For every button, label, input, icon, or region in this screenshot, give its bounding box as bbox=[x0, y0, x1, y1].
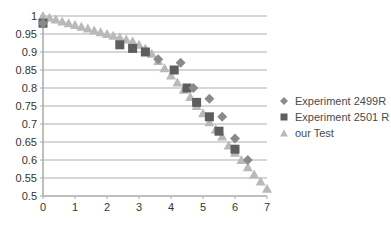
x-axis-ticks: 01234567 bbox=[40, 201, 270, 213]
square-marker bbox=[192, 98, 201, 107]
x-tick-label: 3 bbox=[136, 201, 142, 213]
y-tick-label: 0.75 bbox=[16, 100, 37, 112]
y-tick-label: 0.95 bbox=[16, 28, 37, 40]
x-tick-label: 5 bbox=[200, 201, 206, 213]
x-tick-label: 7 bbox=[264, 201, 270, 213]
legend-item-2499r: Experiment 2499R bbox=[279, 93, 389, 109]
y-tick-label: 0.85 bbox=[16, 64, 37, 76]
y-tick-label: 0.65 bbox=[16, 136, 37, 148]
legend-label: Experiment 2499R bbox=[295, 93, 386, 109]
data-points bbox=[38, 11, 272, 193]
x-tick-label: 1 bbox=[72, 201, 78, 213]
legend-item-2501r: Experiment 2501 R bbox=[279, 109, 389, 125]
square-marker bbox=[231, 145, 240, 154]
legend-item-our-test: our Test bbox=[279, 125, 389, 141]
legend-label: our Test bbox=[295, 125, 334, 141]
y-tick-label: 0.9 bbox=[22, 46, 37, 58]
x-tick-label: 6 bbox=[232, 201, 238, 213]
y-tick-label: 0.6 bbox=[22, 154, 37, 166]
x-tick-label: 0 bbox=[40, 201, 46, 213]
x-tick-label: 2 bbox=[104, 201, 110, 213]
y-tick-label: 0.55 bbox=[16, 172, 37, 184]
square-marker bbox=[205, 112, 214, 121]
legend: Experiment 2499R Experiment 2501 R our T… bbox=[279, 93, 389, 141]
square-marker bbox=[170, 66, 179, 75]
y-tick-label: 0.8 bbox=[22, 82, 37, 94]
y-tick-label: 0.5 bbox=[22, 190, 37, 202]
legend-label: Experiment 2501 R bbox=[295, 109, 389, 125]
triangle-icon bbox=[279, 128, 289, 138]
square-marker bbox=[215, 127, 224, 136]
square-marker bbox=[115, 40, 124, 49]
diamond-marker bbox=[204, 94, 214, 104]
diamond-marker bbox=[217, 112, 227, 122]
x-tick-label: 4 bbox=[168, 201, 174, 213]
diamond-icon bbox=[279, 96, 289, 106]
y-tick-label: 0.7 bbox=[22, 118, 37, 130]
square-marker bbox=[128, 44, 137, 53]
square-icon bbox=[279, 112, 289, 122]
y-axis-ticks: 0.50.550.60.650.70.750.80.850.90.951 bbox=[16, 10, 37, 202]
y-tick-label: 1 bbox=[31, 10, 37, 22]
square-marker bbox=[141, 48, 150, 57]
